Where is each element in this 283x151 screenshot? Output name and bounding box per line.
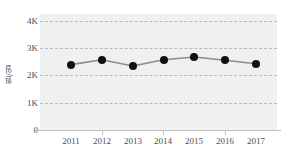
data-point-2014 (160, 56, 168, 64)
y-tick-label-4k: 4K (8, 16, 38, 26)
line-chart: 원/일 4K 3K 2K 1K 0 2011 2012 2013 2014 20… (0, 0, 283, 151)
data-point-2012 (98, 56, 106, 64)
x-tick-label-2017: 2017 (236, 136, 276, 146)
y-tick-label-0: 0 (8, 125, 38, 135)
y-tick-label-1k: 1K (8, 98, 38, 108)
x-tick-mark-2012 (102, 130, 103, 135)
gridline-2k (40, 75, 277, 76)
x-tick-mark-2016 (225, 130, 226, 135)
y-tick-label-3k: 3K (8, 43, 38, 53)
data-point-2017 (252, 60, 260, 68)
gridline-3k (40, 48, 277, 49)
y-tick-label-2k: 2K (8, 70, 38, 80)
gridline-4k (40, 21, 277, 22)
x-tick-mark-2014 (163, 130, 164, 135)
data-point-2013 (129, 62, 137, 70)
x-axis-line (35, 130, 281, 131)
plot-area (40, 14, 277, 130)
gridline-1k (40, 103, 277, 104)
data-point-2011 (67, 61, 75, 69)
